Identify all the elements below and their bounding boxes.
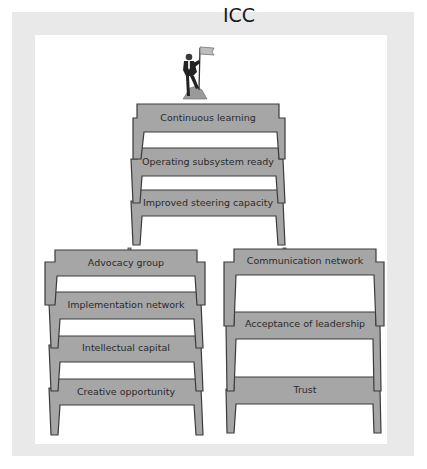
level-label-operating-subsystem-ready: Operating subsystem ready (137, 156, 279, 168)
level-label-intellectual-capital: Intellectual capital (55, 342, 197, 354)
level-label-advocacy-group: Advocacy group (55, 257, 197, 269)
level-label-creative-opportunity: Creative opportunity (55, 386, 197, 398)
level-label-implementation-network: Implementation network (55, 299, 197, 311)
person-planting-flag-on-summit-icon (183, 47, 214, 99)
stacked-tables-diagram (0, 0, 427, 469)
top-stack (131, 104, 285, 245)
level-label-communication-network: Communication network (234, 255, 376, 267)
diagram-title: ICC (223, 4, 255, 26)
level-label-acceptance-of-leadership: Acceptance of leadership (234, 318, 376, 330)
level-label-continuous-learning: Continuous learning (137, 112, 279, 124)
right-stack (224, 249, 384, 433)
level-label-trust: Trust (234, 384, 376, 396)
level-label-improved-steering-capacity: Improved steering capacity (137, 197, 279, 209)
